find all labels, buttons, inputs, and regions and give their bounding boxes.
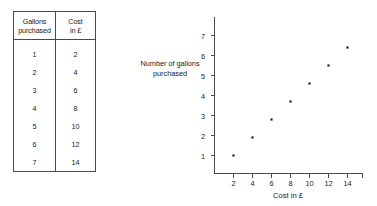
- header-cost-line2: in £: [70, 26, 81, 35]
- data-point: [289, 100, 291, 102]
- data-point: [251, 136, 253, 138]
- y-axis-title: Number of gallons purchased: [122, 59, 218, 79]
- x-axis-tick-labels: 2 4 6 8 10 12 14: [231, 179, 351, 188]
- y-axis-title-line2: purchased: [122, 69, 218, 79]
- data-point: [327, 64, 329, 66]
- table-cell-gallons: 7: [33, 153, 37, 171]
- y-tick-label: 7: [201, 32, 205, 41]
- data-point-group: [232, 46, 348, 156]
- y-tick-label: 2: [201, 132, 205, 141]
- table-cell-gallons: 1: [33, 45, 37, 63]
- table-cell-gallons: 3: [33, 81, 37, 99]
- x-tick-label: 12: [324, 179, 332, 188]
- x-axis-title: Cost in £: [273, 191, 304, 200]
- header-cost-line1: Cost: [68, 17, 82, 26]
- table-cell-cost: 14: [72, 153, 80, 171]
- table-header-gallons: Gallons purchased: [14, 12, 55, 39]
- x-tick-label: 6: [269, 179, 273, 188]
- y-axis-ticks: [211, 36, 215, 156]
- x-tick-label: 8: [288, 179, 292, 188]
- x-tick-label: 2: [231, 179, 235, 188]
- table-column-gallons: 1 2 3 4 5 6 7: [14, 40, 55, 171]
- x-tick-label: 4: [250, 179, 254, 188]
- header-gallons-line1: Gallons: [23, 17, 47, 26]
- header-gallons-line2: purchased: [18, 26, 51, 35]
- table-body: 1 2 3 4 5 6 7 2 4 6 8 10 12 14: [14, 40, 95, 171]
- table-cell-cost: 12: [72, 135, 80, 153]
- table-cell-cost: 2: [74, 45, 78, 63]
- table-cell-cost: 6: [74, 81, 78, 99]
- table-column-cost: 2 4 6 8 10 12 14: [55, 40, 95, 171]
- x-tick-label: 10: [305, 179, 313, 188]
- x-tick-label: 14: [343, 179, 351, 188]
- table-header-row: Gallons purchased Cost in £: [14, 12, 95, 40]
- table-header-cost: Cost in £: [55, 12, 95, 39]
- data-point: [308, 82, 310, 84]
- table-cell-cost: 4: [74, 63, 78, 81]
- data-point: [270, 118, 272, 120]
- table-cell-gallons: 4: [33, 99, 37, 117]
- scatter-plot-svg: 1 2 3 4 5 6 7 2 4 6 8 10 12 14: [115, 0, 377, 206]
- data-point: [346, 46, 348, 48]
- scatter-plot: Number of gallons purchased 1 2 3 4 5 6 …: [115, 0, 377, 206]
- table-cell-cost: 10: [72, 117, 80, 135]
- table-cell-gallons: 5: [33, 117, 37, 135]
- table-cell-gallons: 2: [33, 63, 37, 81]
- y-tick-label: 1: [201, 152, 205, 161]
- data-point: [232, 154, 234, 156]
- y-tick-label: 4: [201, 92, 205, 101]
- y-axis-title-line1: Number of gallons: [122, 59, 218, 69]
- y-tick-label: 3: [201, 112, 205, 121]
- table-cell-gallons: 6: [33, 135, 37, 153]
- y-axis-tick-labels: 1 2 3 4 5 6 7: [201, 32, 205, 161]
- table-cell-cost: 8: [74, 99, 78, 117]
- gallons-cost-table: Gallons purchased Cost in £ 1 2 3 4 5 6 …: [13, 11, 96, 172]
- x-axis-ticks: [234, 174, 363, 178]
